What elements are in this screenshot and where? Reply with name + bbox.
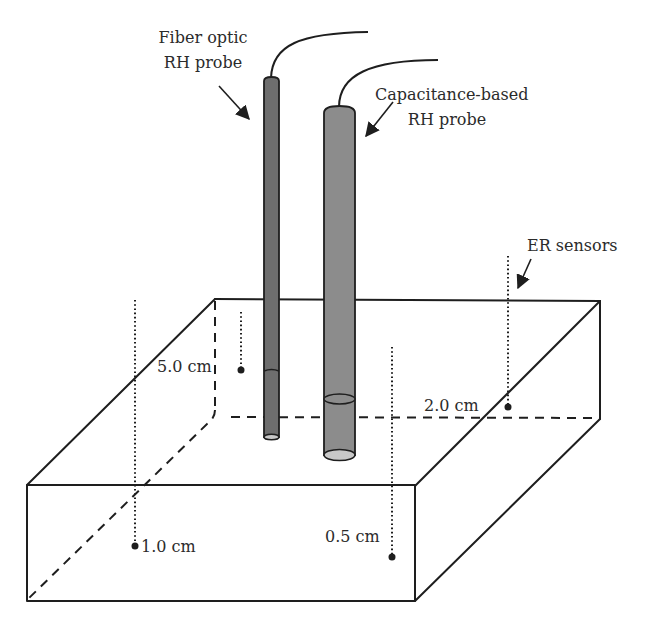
er-sensors-arrow	[518, 259, 531, 288]
capacitance-probe-tip	[324, 450, 355, 461]
er-sensor-2cm: 2.0 cm	[424, 256, 512, 415]
fiber-probe-tip	[264, 434, 279, 440]
sensor-depth-label: 2.0 cm	[424, 396, 479, 415]
fiber-probe-arrow	[219, 86, 249, 119]
block-hidden-edges	[27, 301, 600, 600]
er-sensor-1cm: 1.0 cm	[132, 300, 196, 556]
capacitance-probe-callout: Capacitance-based RH probe	[366, 85, 528, 136]
capacitance-probe-arrow	[366, 102, 393, 136]
fiber-probe-body	[264, 77, 279, 437]
er-sensors-label: ER sensors	[527, 236, 618, 255]
sensor-dot	[238, 367, 245, 374]
fiber-probe-label-line2: RH probe	[164, 53, 242, 72]
specimen-block	[27, 299, 600, 601]
sensor-dot	[389, 554, 396, 561]
capacitance-probe-label-line2: RH probe	[408, 110, 486, 129]
capacitance-probe-label-line1: Capacitance-based	[375, 85, 528, 104]
sensor-depth-label: 5.0 cm	[157, 357, 212, 376]
fiber-cable	[271, 32, 368, 78]
fiber-probe-label-line1: Fiber optic	[158, 28, 247, 47]
fiber-probe-callout: Fiber optic RH probe	[158, 28, 249, 119]
sensor-depth-label: 1.0 cm	[141, 537, 196, 556]
sensor-dot	[505, 404, 512, 411]
probe-block-diagram: 1.0 cm 0.5 cm 5.0 cm 2.0 cm Fib	[0, 0, 651, 637]
er-sensors-callout: ER sensors	[518, 236, 618, 288]
sensor-depth-label: 0.5 cm	[325, 527, 380, 546]
er-sensors: 1.0 cm 0.5 cm 5.0 cm 2.0 cm	[132, 256, 512, 561]
sensor-dot	[132, 543, 139, 550]
